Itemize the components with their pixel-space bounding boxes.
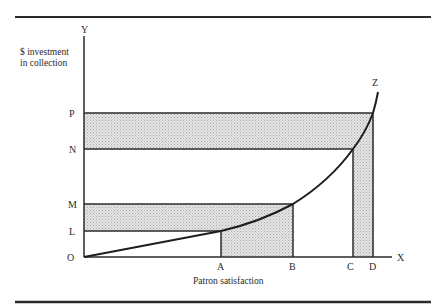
x-axis-letter: X: [397, 252, 405, 263]
y-label-n: N: [69, 144, 76, 155]
x-axis-title: Patron satisfaction: [193, 276, 264, 286]
x-label-a: A: [217, 261, 225, 272]
y-axis-letter: Y: [81, 24, 88, 35]
x-label-c: C: [347, 261, 354, 272]
y-label-l: L: [69, 226, 75, 237]
diagram-canvas: Y X O Z $ investment in collection P N M…: [0, 0, 446, 308]
shaded-band-c-d: [353, 149, 373, 257]
y-axis-title-line2: in collection: [20, 58, 67, 68]
shaded-band-n-p: [84, 113, 373, 149]
x-label-b: B: [289, 261, 296, 272]
x-label-d: D: [369, 261, 376, 272]
y-label-p: P: [69, 108, 75, 119]
y-label-m: M: [68, 199, 77, 210]
shaded-band-a-b: [221, 231, 293, 257]
curve-label-z: Z: [372, 77, 378, 88]
y-axis-title-line1: $ investment: [20, 47, 69, 57]
origin-label: O: [67, 252, 74, 263]
